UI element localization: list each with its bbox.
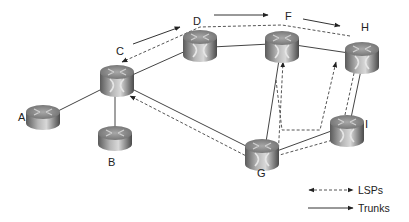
router-a-icon[interactable] xyxy=(26,105,60,130)
trunk-d-f xyxy=(212,44,270,47)
label-b: B xyxy=(108,156,115,168)
lsp-g-c xyxy=(130,96,254,160)
network-diagram: A B C D F H G I LSPs Trunks xyxy=(0,0,409,222)
lsp-h-f-d-c xyxy=(122,25,350,62)
trunk-g-f xyxy=(266,60,279,142)
trunk-c-g xyxy=(130,88,250,148)
router-d-icon[interactable] xyxy=(183,30,217,62)
router-h-icon[interactable] xyxy=(345,42,379,74)
label-i: I xyxy=(365,118,368,130)
trunk-f-h xyxy=(295,45,349,53)
label-g: G xyxy=(257,167,266,179)
router-f-icon[interactable] xyxy=(265,31,299,63)
router-b-icon[interactable] xyxy=(98,126,132,151)
label-d: D xyxy=(193,15,201,27)
legend: LSPs Trunks xyxy=(308,184,390,214)
trunk-g-i xyxy=(274,130,334,152)
label-h: H xyxy=(361,21,369,33)
arrow-f-to-h xyxy=(303,19,340,26)
label-c: C xyxy=(116,45,124,57)
trunk-c-d xyxy=(130,50,188,76)
router-c-icon[interactable] xyxy=(100,65,134,97)
arrow-c-to-d xyxy=(133,27,180,44)
trunk-a-c xyxy=(52,88,104,114)
lsp-i-h-inner xyxy=(276,62,336,130)
label-f: F xyxy=(285,10,292,22)
legend-trunks-label: Trunks xyxy=(358,202,390,214)
router-i-icon[interactable] xyxy=(330,115,364,147)
label-a: A xyxy=(18,111,26,123)
trunk-i-h xyxy=(351,70,361,118)
legend-lsps-label: LSPs xyxy=(358,184,383,196)
